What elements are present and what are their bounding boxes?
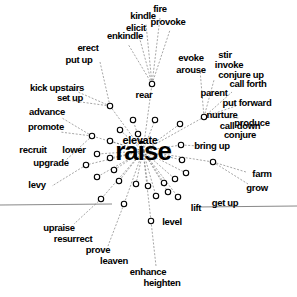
graph-node[interactable] — [153, 193, 158, 198]
node-label[interactable]: evoke — [178, 53, 203, 63]
node-label[interactable]: rear — [136, 90, 153, 100]
graph-edge — [152, 18, 160, 84]
baseline-group — [0, 204, 297, 207]
node-label[interactable]: lift — [191, 203, 201, 213]
graph-node[interactable] — [94, 174, 99, 179]
node-label[interactable]: lower — [62, 145, 85, 155]
graph-edge — [100, 62, 110, 106]
graph-edge — [146, 24, 152, 84]
node-label[interactable]: levy — [28, 180, 45, 190]
graph-node[interactable] — [130, 117, 135, 122]
node-label[interactable]: upraise — [43, 223, 75, 233]
graph-node[interactable] — [179, 157, 184, 162]
node-label[interactable]: level — [162, 217, 182, 227]
graph-node[interactable] — [94, 151, 99, 156]
overlay-node-label: elevate — [122, 135, 157, 146]
graph-node[interactable] — [98, 196, 103, 201]
graph-node[interactable] — [107, 138, 112, 143]
graph-node[interactable] — [89, 133, 94, 138]
node-label[interactable]: set up — [57, 93, 83, 103]
node-label[interactable]: arouse — [176, 65, 205, 75]
node-label[interactable]: call forth — [229, 79, 266, 89]
node-label[interactable]: erect — [77, 43, 98, 53]
graph-node[interactable] — [133, 181, 138, 186]
graph-node[interactable] — [161, 180, 166, 185]
baseline-left — [0, 204, 112, 205]
graph-edge — [213, 162, 246, 172]
node-label[interactable]: bring up — [194, 141, 230, 151]
node-label[interactable]: grow — [246, 183, 268, 193]
node-label[interactable]: enkindle — [107, 31, 143, 41]
graph-node[interactable] — [152, 117, 157, 122]
graph-edge — [60, 132, 92, 136]
graph-node[interactable] — [165, 189, 170, 194]
graph-node[interactable] — [107, 103, 112, 108]
node-label[interactable]: conjure — [224, 130, 256, 140]
node-label[interactable]: prove — [86, 245, 110, 255]
node-label[interactable]: upgrade — [33, 158, 68, 168]
graph-edge — [213, 162, 248, 184]
node-label[interactable]: enhance — [130, 267, 166, 277]
graph-edge — [152, 30, 170, 84]
node-label[interactable]: put up — [65, 55, 92, 65]
graph-node[interactable] — [178, 142, 183, 147]
node-label[interactable]: resurrect — [54, 234, 93, 244]
node-label[interactable]: advance — [29, 107, 65, 117]
node-label[interactable]: farm — [252, 169, 271, 179]
graph-edge — [139, 36, 152, 84]
graph-edge — [108, 204, 124, 246]
node-label[interactable]: provoke — [151, 17, 186, 27]
node-label[interactable]: heighten — [143, 278, 180, 288]
graph-node[interactable] — [121, 201, 126, 206]
graph-canvas: firekindleprovokeelicitenkindleerectput … — [0, 0, 297, 297]
graph-node[interactable] — [149, 81, 154, 86]
graph-node[interactable] — [172, 176, 177, 181]
graph-node[interactable] — [111, 167, 116, 172]
node-label[interactable]: put forward — [223, 98, 272, 108]
node-label[interactable]: nurture — [206, 110, 237, 120]
node-label[interactable]: get up — [212, 198, 239, 208]
node-label[interactable]: promote — [28, 122, 64, 132]
graph-node[interactable] — [145, 183, 150, 188]
graph-node[interactable] — [117, 127, 122, 132]
graph-edge — [74, 199, 101, 224]
graph-node[interactable] — [83, 162, 88, 167]
graph-node[interactable] — [183, 170, 188, 175]
graph-node[interactable] — [116, 178, 121, 183]
graph-node[interactable] — [210, 159, 215, 164]
graph-node[interactable] — [107, 155, 112, 160]
graph-edge — [151, 221, 156, 266]
graph-node[interactable] — [148, 218, 153, 223]
graph-node[interactable] — [177, 121, 182, 126]
node-label[interactable]: leaven — [100, 256, 128, 266]
graph-node[interactable] — [175, 194, 180, 199]
node-label[interactable]: recruit — [19, 145, 46, 155]
graph-edge — [62, 118, 92, 136]
